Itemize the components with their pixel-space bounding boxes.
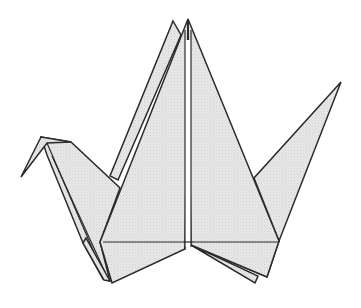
origami-crane-illustration: Origami paper crane line illustration xyxy=(0,0,361,308)
center-gap xyxy=(185,40,191,247)
crane-svg xyxy=(0,0,361,308)
crane-body-left-panel xyxy=(100,19,188,283)
crane-body-right-panel xyxy=(188,19,279,277)
